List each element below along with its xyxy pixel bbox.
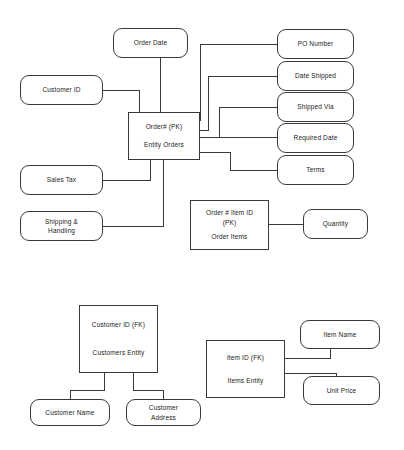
node-quantity-label: Quantity: [320, 219, 351, 228]
node-items-entity-key: Item ID (FK): [224, 353, 267, 362]
node-customer-address-label: Customer Address: [146, 403, 181, 422]
node-required-date[interactable]: Required Date: [277, 123, 354, 153]
node-order-items-entity[interactable]: Order # Item ID (PK) Order Items: [190, 200, 269, 250]
node-date-shipped-label: Date Shipped: [292, 71, 339, 80]
connector-shipping-to-orders: [103, 160, 163, 226]
connector-customers-to-customer-address: [133, 373, 163, 399]
node-unit-price-label: Unit Price: [324, 386, 360, 395]
node-required-date-label: Required Date: [291, 133, 341, 142]
node-shipped-via-label: Shipped Via: [294, 102, 337, 111]
node-customer-name-label: Customer Name: [42, 408, 97, 417]
node-item-name-label: Item Name: [320, 330, 359, 339]
erd-diagram-canvas: Order Date Customer ID Sales Tax Shippin…: [0, 0, 404, 450]
node-po-number-label: PO Number: [295, 39, 337, 48]
connector-customer-id-to-orders: [103, 90, 139, 112]
node-sales-tax[interactable]: Sales Tax: [20, 165, 103, 195]
node-customer-name[interactable]: Customer Name: [30, 399, 110, 426]
node-shipping-handling[interactable]: Shipping & Handling: [20, 211, 103, 241]
node-items-entity[interactable]: Item ID (FK) Items Entity: [206, 340, 285, 398]
node-customers-entity[interactable]: Customer ID (FK) Customers Entity: [79, 305, 158, 373]
node-items-entity-title: Items Entity: [225, 376, 267, 385]
connector-orders-to-po-number: [200, 44, 277, 121]
node-terms-label: Terms: [303, 165, 327, 174]
connector-orders-to-shipped-via: [200, 107, 277, 137]
node-sales-tax-label: Sales Tax: [44, 175, 79, 184]
node-shipped-via[interactable]: Shipped Via: [277, 92, 354, 122]
node-orders-entity-title: Entity Orders: [141, 140, 187, 149]
node-shipping-handling-label: Shipping & Handling: [42, 217, 81, 236]
node-customers-entity-key: Customer ID (FK): [89, 320, 148, 329]
connector-customers-to-customer-name: [70, 373, 104, 399]
node-quantity[interactable]: Quantity: [303, 209, 368, 239]
node-order-items-entity-key: Order # Item ID (PK): [203, 208, 256, 227]
node-po-number[interactable]: PO Number: [277, 29, 354, 59]
node-order-items-entity-title: Order Items: [209, 232, 251, 241]
connector-sales-tax-to-orders: [103, 160, 150, 180]
node-orders-entity[interactable]: Order# (PK) Entity Orders: [128, 112, 200, 160]
connector-orders-to-date-shipped: [200, 76, 277, 130]
node-date-shipped[interactable]: Date Shipped: [277, 61, 354, 91]
node-unit-price[interactable]: Unit Price: [303, 376, 380, 405]
node-customer-id[interactable]: Customer ID: [20, 75, 103, 105]
node-orders-entity-key: Order# (PK): [143, 122, 186, 131]
node-customers-entity-title: Customers Entity: [90, 348, 148, 357]
node-customer-id-label: Customer ID: [39, 85, 83, 94]
node-order-date-label: Order Date: [131, 38, 171, 47]
node-order-date[interactable]: Order Date: [113, 28, 188, 58]
node-customer-address[interactable]: Customer Address: [126, 399, 201, 426]
node-terms[interactable]: Terms: [277, 155, 354, 185]
node-item-name[interactable]: Item Name: [300, 320, 380, 349]
connector-orders-to-terms: [200, 152, 277, 170]
